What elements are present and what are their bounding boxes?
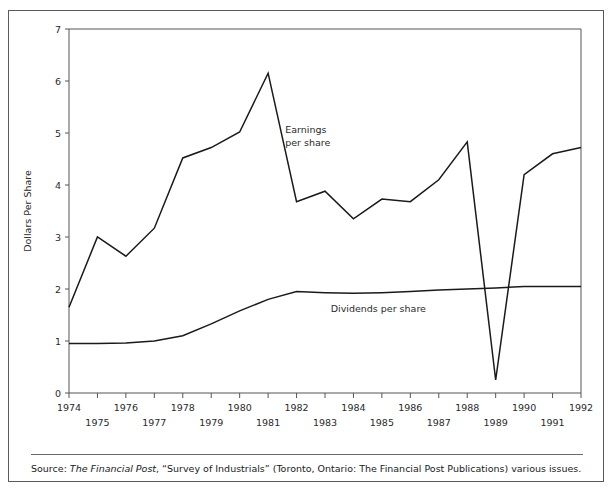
series-annotations: Earningsper shareDividends per share bbox=[285, 124, 426, 314]
y-axis-title: Dollars Per Share bbox=[22, 170, 33, 252]
series-line-earnings bbox=[69, 73, 581, 380]
x-axis-ticks: 1974197519761977197819791980198119821983… bbox=[57, 393, 593, 428]
x-tick-label-1988: 1988 bbox=[455, 402, 479, 413]
x-tick-label-1990: 1990 bbox=[512, 402, 536, 413]
y-tick-label-4: 4 bbox=[55, 180, 61, 191]
x-tick-label-1977: 1977 bbox=[142, 417, 166, 428]
x-tick-label-1983: 1983 bbox=[313, 417, 337, 428]
x-tick-label-1976: 1976 bbox=[114, 402, 138, 413]
chart-area: 01234567 1974197519761977197819791980198… bbox=[9, 11, 605, 435]
y-tick-label-2: 2 bbox=[55, 284, 61, 295]
source-prefix: Source: bbox=[31, 463, 70, 474]
x-tick-label-1991: 1991 bbox=[540, 417, 564, 428]
x-tick-label-1975: 1975 bbox=[85, 417, 109, 428]
axis-lines bbox=[69, 29, 581, 393]
x-tick-label-1982: 1982 bbox=[284, 402, 308, 413]
earnings-annotation-line2: per share bbox=[285, 137, 330, 148]
source-publication: The Financial Post bbox=[70, 463, 156, 474]
y-tick-label-3: 3 bbox=[55, 232, 61, 243]
y-tick-label-7: 7 bbox=[55, 24, 61, 35]
x-tick-label-1992: 1992 bbox=[569, 402, 593, 413]
y-tick-label-0: 0 bbox=[55, 388, 61, 399]
source-note: Source: The Financial Post, “Survey of I… bbox=[31, 462, 591, 475]
data-series-group bbox=[69, 73, 581, 380]
x-tick-label-1986: 1986 bbox=[398, 402, 422, 413]
earnings-annotation: Earnings bbox=[285, 124, 326, 135]
y-tick-label-1: 1 bbox=[55, 336, 61, 347]
x-tick-label-1974: 1974 bbox=[57, 402, 81, 413]
source-divider bbox=[31, 454, 583, 455]
y-axis-ticks: 01234567 bbox=[55, 24, 69, 399]
plot-frame-path bbox=[69, 29, 581, 393]
x-tick-label-1978: 1978 bbox=[171, 402, 195, 413]
x-tick-label-1981: 1981 bbox=[256, 417, 280, 428]
earnings-dividends-line-chart: 01234567 1974197519761977197819791980198… bbox=[9, 11, 605, 435]
x-tick-label-1980: 1980 bbox=[228, 402, 252, 413]
dividends-annotation: Dividends per share bbox=[331, 303, 426, 314]
figure-frame: 01234567 1974197519761977197819791980198… bbox=[8, 10, 604, 482]
y-tick-label-6: 6 bbox=[55, 76, 61, 87]
x-tick-label-1989: 1989 bbox=[484, 417, 508, 428]
y-tick-label-5: 5 bbox=[55, 128, 61, 139]
x-tick-label-1987: 1987 bbox=[427, 417, 451, 428]
x-tick-label-1984: 1984 bbox=[341, 402, 365, 413]
x-tick-label-1979: 1979 bbox=[199, 417, 223, 428]
source-rest: , “Survey of Industrials” (Toronto, Onta… bbox=[156, 463, 581, 474]
x-tick-label-1985: 1985 bbox=[370, 417, 394, 428]
